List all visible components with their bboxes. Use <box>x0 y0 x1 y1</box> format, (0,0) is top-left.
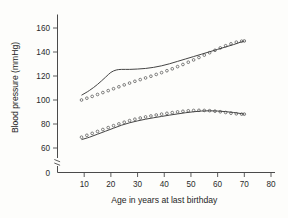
series-marker-3-0 <box>80 136 83 139</box>
series-marker-1-4 <box>102 91 105 94</box>
series-marker-1-17 <box>171 67 174 70</box>
series-marker-1-0 <box>80 99 83 102</box>
series-marker-3-1 <box>86 134 89 137</box>
series-marker-1-19 <box>182 63 185 66</box>
series-marker-1-3 <box>96 93 99 96</box>
series-marker-1-11 <box>139 78 142 81</box>
series-marker-3-9 <box>128 119 131 122</box>
x-tick-label-30: 30 <box>133 180 143 189</box>
x-tick-label-60: 60 <box>213 180 223 189</box>
series-marker-1-22 <box>198 56 201 59</box>
y-tick-label-80: 80 <box>41 120 51 129</box>
series-marker-1-8 <box>123 84 126 87</box>
series-marker-1-28 <box>230 42 233 45</box>
x-tick-label-80: 80 <box>266 180 276 189</box>
series-marker-1-14 <box>155 73 158 76</box>
x-tick-label-10: 10 <box>80 180 90 189</box>
series-marker-1-16 <box>166 69 169 72</box>
series-marker-3-17 <box>171 111 174 114</box>
series-marker-3-18 <box>176 111 179 114</box>
y-tick-label-160: 160 <box>36 24 50 33</box>
series-marker-1-23 <box>203 54 206 57</box>
series-marker-3-14 <box>155 114 158 117</box>
series-marker-1-20 <box>187 61 190 64</box>
blood-pressure-chart: 608010012014016001020304050607080Age in … <box>0 0 288 218</box>
series-marker-1-7 <box>118 85 121 88</box>
series-marker-3-13 <box>150 115 153 118</box>
series-marker-1-2 <box>91 95 94 98</box>
y-tick-label-100: 100 <box>36 96 50 105</box>
series-marker-1-15 <box>160 71 163 74</box>
x-tick-label-70: 70 <box>240 180 250 189</box>
series-marker-3-6 <box>112 124 115 127</box>
series-marker-1-13 <box>150 75 153 78</box>
series-marker-3-3 <box>96 130 99 133</box>
y-axis-break-icon <box>54 160 60 166</box>
series-marker-1-5 <box>107 89 110 92</box>
series-marker-1-18 <box>176 65 179 68</box>
y-tick-label-120: 120 <box>36 72 50 81</box>
series-marker-3-15 <box>160 113 163 116</box>
series-marker-3-7 <box>118 123 121 126</box>
series-marker-3-4 <box>102 128 105 131</box>
series-marker-3-20 <box>187 109 190 112</box>
x-tick-label-50: 50 <box>186 180 196 189</box>
series-marker-3-10 <box>134 118 137 121</box>
chart-canvas: 608010012014016001020304050607080Age in … <box>0 0 288 218</box>
series-marker-1-21 <box>192 59 195 62</box>
series-marker-3-11 <box>139 117 142 120</box>
series-marker-3-19 <box>182 110 185 113</box>
series-1 <box>80 40 245 102</box>
y-tick-label-60: 60 <box>41 144 51 153</box>
y-axis-title: Blood pressure (mmHg) <box>10 42 20 133</box>
series-marker-3-8 <box>123 121 126 124</box>
x-axis-title: Age in years at last birthday <box>111 195 218 205</box>
x-tick-label-40: 40 <box>160 180 170 189</box>
series-marker-1-1 <box>86 97 89 100</box>
series-marker-1-6 <box>112 87 115 90</box>
y-tick-label-140: 140 <box>36 48 50 57</box>
series-marker-1-12 <box>144 77 147 80</box>
series-marker-3-16 <box>166 112 169 115</box>
series-marker-3-2 <box>91 132 94 135</box>
x-tick-label-20: 20 <box>106 180 116 189</box>
y-tick-label-0: 0 <box>45 169 50 178</box>
series-marker-1-10 <box>134 80 137 83</box>
series-marker-3-12 <box>144 116 147 119</box>
series-marker-1-29 <box>235 41 238 44</box>
series-marker-3-5 <box>107 126 110 129</box>
series-3 <box>80 109 245 139</box>
series-marker-1-9 <box>128 82 131 85</box>
